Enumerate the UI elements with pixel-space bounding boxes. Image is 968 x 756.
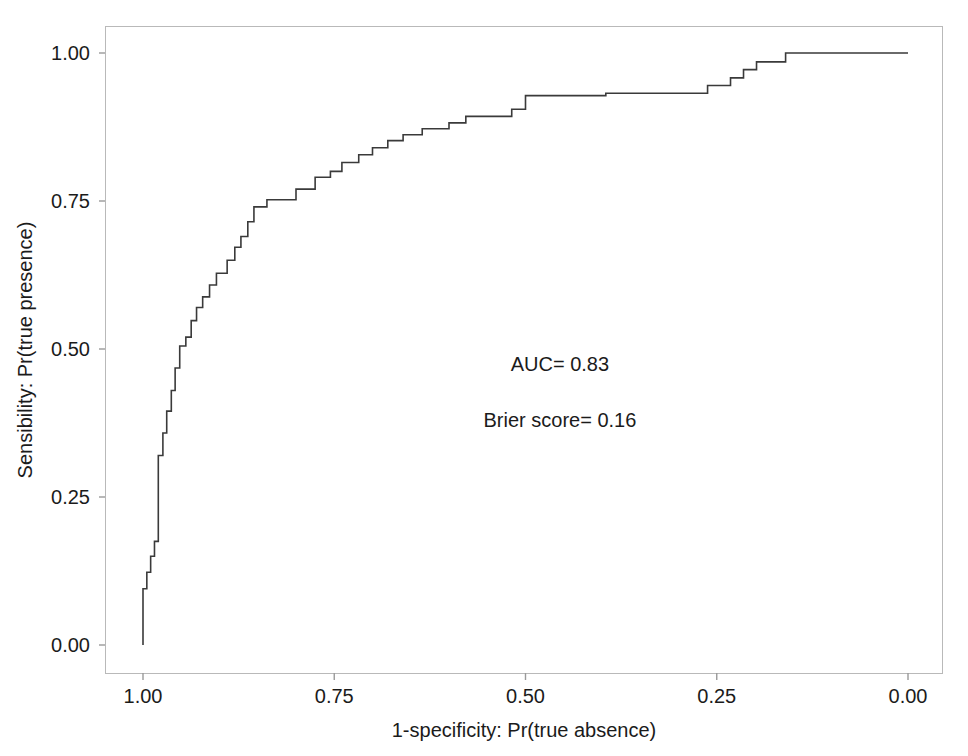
x-axis-tick-label: 1.00 (124, 685, 163, 707)
y-axis-tick-label: 0.75 (51, 190, 90, 212)
x-axis-tick-label: 0.75 (315, 685, 354, 707)
y-axis-tick-label: 0.25 (51, 486, 90, 508)
auc-annotation: AUC= 0.83 (511, 353, 609, 375)
plot-frame (106, 27, 943, 674)
x-axis-title: 1-specificity: Pr(true absence) (392, 719, 657, 741)
x-axis-tick-label: 0.50 (506, 685, 545, 707)
x-axis-ticks (143, 673, 908, 680)
roc-curve-figure: 0.000.250.500.751.00 1.000.750.500.250.0… (0, 0, 968, 756)
y-axis-title: Sensibility: Pr(true presence) (14, 222, 36, 479)
x-axis-tick-label: 0.25 (697, 685, 736, 707)
brier-score-annotation: Brier score= 0.16 (483, 409, 636, 431)
x-axis-tick-label: 0.00 (889, 685, 928, 707)
y-axis-tick-label: 0.50 (51, 338, 90, 360)
x-axis-tick-labels: 1.000.750.500.250.00 (124, 685, 928, 707)
y-axis-tick-label: 1.00 (51, 42, 90, 64)
roc-plot-svg: 0.000.250.500.751.00 1.000.750.500.250.0… (0, 0, 968, 756)
y-axis-tick-labels: 0.000.250.500.751.00 (51, 42, 90, 656)
y-axis-ticks (99, 53, 105, 645)
y-axis-tick-label: 0.00 (51, 634, 90, 656)
